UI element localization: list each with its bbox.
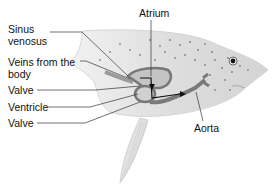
label-veins-line1: Veins from the bbox=[8, 56, 75, 68]
label-ventricle: Ventricle bbox=[8, 101, 48, 113]
label-valve-lower: Valve bbox=[8, 117, 34, 129]
label-veins-line2: body bbox=[8, 68, 31, 80]
label-aorta: Aorta bbox=[194, 122, 219, 134]
fish-illustration bbox=[0, 0, 275, 187]
fish-heart-diagram: Sinus venosus Veins from the body Valve … bbox=[0, 0, 275, 187]
label-valve-upper: Valve bbox=[8, 84, 34, 96]
label-sinus-venosus-line2: venosus bbox=[8, 35, 47, 47]
label-sinus-venosus-line1: Sinus bbox=[8, 23, 34, 35]
label-atrium: Atrium bbox=[139, 7, 169, 19]
